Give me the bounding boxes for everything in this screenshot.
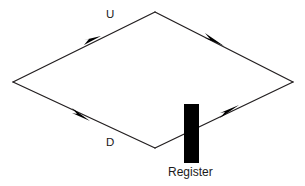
diagram-svg — [0, 0, 305, 186]
edge-left-to-bottom — [13, 82, 155, 148]
label-down-path: D — [106, 137, 114, 149]
edge-left-to-top — [13, 12, 155, 82]
arrowhead-down-left-icon — [72, 108, 90, 121]
edge-top-to-right — [155, 12, 293, 82]
register-block — [184, 104, 199, 163]
diagram-canvas-container: U D Register — [0, 0, 305, 186]
label-up-path: U — [106, 9, 114, 21]
label-register: Register — [168, 166, 213, 178]
